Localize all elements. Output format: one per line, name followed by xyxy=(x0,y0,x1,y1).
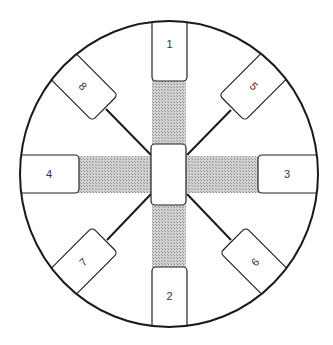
box-2: 2 xyxy=(152,267,187,342)
spoke-line-6 xyxy=(187,194,231,240)
box-6: 6 xyxy=(220,227,289,296)
box-3-label: 3 xyxy=(284,168,290,180)
spoke-line-7 xyxy=(107,194,151,240)
box-2-label: 2 xyxy=(166,290,172,302)
box-4-label: 4 xyxy=(46,168,52,180)
spoke-line-5 xyxy=(187,110,231,155)
box-1-label: 1 xyxy=(166,38,172,50)
center-box xyxy=(151,144,186,205)
radial-diagram: 1 2 3 4 8 5 7 6 xyxy=(0,0,333,345)
spoke-line-8 xyxy=(106,109,151,155)
box-7: 7 xyxy=(48,227,117,296)
box-4: 4 xyxy=(8,155,79,193)
